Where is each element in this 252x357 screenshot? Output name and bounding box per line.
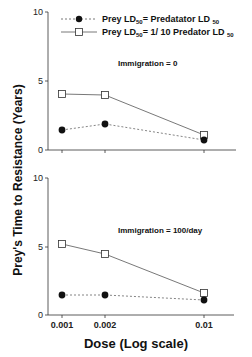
data-point: [201, 290, 208, 297]
bottom-ytick-5: 5: [38, 242, 43, 252]
top-annotation: Immigration = 0: [118, 59, 178, 68]
chart-figure: Prey's Time to Resistance (Years) 10 5 0…: [0, 0, 252, 357]
data-point: [59, 91, 66, 98]
bottom-annotation: Immigration = 100/day: [118, 226, 203, 235]
xtick-0.001: 0.001: [51, 320, 74, 330]
filled-circle-marker-icon: [76, 16, 82, 22]
top-panel: 10 5 0 Prey LD50= Predatator LD 50 Prey …: [33, 7, 236, 155]
data-point: [201, 297, 208, 304]
x-axis-title: Dose (Log scale): [84, 336, 188, 351]
legend-entry-1: Prey LD50= Predatator LD 50: [102, 14, 220, 25]
bottom-ytick-10: 10: [33, 173, 43, 183]
data-point: [59, 127, 66, 134]
xtick-0.01: 0.01: [195, 320, 213, 330]
y-axis-title: Prey's Time to Resistance (Years): [11, 84, 25, 275]
top-ytick-10: 10: [33, 7, 43, 17]
data-point: [59, 241, 66, 248]
open-square-marker-icon: [76, 29, 83, 36]
data-point: [102, 92, 109, 99]
top-ytick-0: 0: [38, 145, 43, 155]
data-point: [201, 137, 208, 144]
legend-entry-2: Prey LD50= 1/ 10 Predator LD 50: [102, 27, 234, 38]
xtick-0.002: 0.002: [94, 320, 117, 330]
data-point: [59, 292, 66, 299]
legend: Prey LD50= Predatator LD 50 Prey LD50= 1…: [61, 14, 234, 38]
data-point: [102, 251, 109, 258]
top-ytick-5: 5: [38, 76, 43, 86]
data-point: [102, 121, 109, 128]
data-point: [102, 292, 109, 299]
top-series-square-line: [62, 94, 204, 135]
bottom-series-circle-line: [62, 295, 204, 300]
bottom-ytick-0: 0: [38, 310, 43, 320]
bottom-panel: 10 5 0 0.001 0.002 0.01 Immigration = 10…: [33, 173, 234, 330]
bottom-series-square-line: [62, 244, 204, 293]
